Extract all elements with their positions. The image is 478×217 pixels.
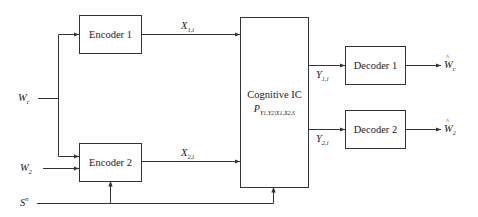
decoder-1-label: Decoder 1 (354, 60, 397, 71)
state-label: Sn (20, 196, 29, 208)
cognitive-ic-block: Cognitive IC PY1,Y2|X1,X2,S (240, 17, 309, 188)
encoder-2-block: Encoder 2 (79, 143, 142, 182)
estimated-private-message-label: W2 (444, 124, 456, 137)
encoder-1-block: Encoder 1 (79, 15, 142, 54)
wire-layer (0, 0, 478, 217)
decoder-2-block: Decoder 2 (345, 110, 406, 149)
y1-label: Y1,i (316, 70, 329, 83)
state-line (37, 187, 274, 204)
cognitive-ic-title: Cognitive IC (247, 89, 302, 100)
private-message-label: W2 (20, 163, 32, 176)
common-message-label: Wc (18, 93, 30, 106)
encoder-2-label: Encoder 2 (89, 157, 132, 168)
estimated-common-message-label: Wc (444, 60, 456, 73)
channel-distribution: PY1,Y2|X1,X2,S (254, 103, 295, 116)
y2-label: Y2,i (316, 134, 329, 147)
x1-label: X1,i (181, 21, 194, 34)
encoder-1-label: Encoder 1 (89, 29, 132, 40)
x2-label: X2,i (181, 148, 194, 161)
decoder-1-block: Decoder 1 (345, 46, 406, 85)
decoder-2-label: Decoder 2 (354, 124, 397, 135)
